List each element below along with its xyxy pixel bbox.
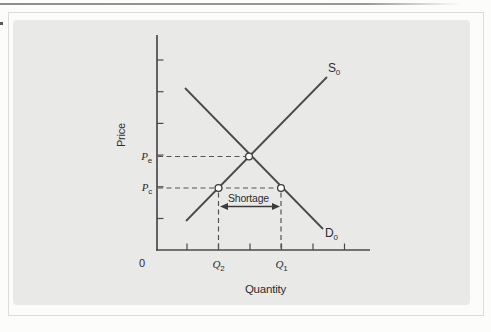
x-axis-ticks: [187, 244, 345, 251]
quantity-demanded-subscript: 1: [283, 264, 287, 273]
price-equilibrium-subscript: e: [148, 156, 152, 165]
equilibrium-point-marker: [246, 153, 253, 160]
shortage-arrowhead-left: [220, 203, 228, 210]
shortage-arrowhead-right: [272, 203, 280, 210]
supply-symbol: S: [328, 61, 336, 75]
demand-curve: [185, 88, 323, 229]
y-axis-title: Price: [116, 123, 127, 147]
price-equilibrium-label: Pe: [132, 151, 152, 165]
quantity-supplied-label: Q2: [206, 259, 231, 273]
y-axis-ticks: [157, 60, 164, 219]
demand-curve-label: D0: [325, 227, 338, 242]
demand-subscript: 0: [333, 233, 337, 242]
ceiling-supply-point-marker: [215, 185, 222, 192]
quantity-supplied-subscript: 2: [220, 264, 224, 273]
price-ceiling-subscript: c: [148, 187, 152, 196]
price-ceiling-label: Pc: [132, 182, 152, 196]
ceiling-demand-point-marker: [278, 185, 285, 192]
supply-curve-label: S0: [328, 62, 340, 77]
shortage-arrow: [220, 203, 280, 210]
quantity-demanded-label: Q1: [269, 259, 294, 273]
supply-subscript: 0: [336, 68, 340, 77]
origin-label: 0: [136, 258, 148, 269]
shortage-label: Shortage: [221, 193, 276, 204]
x-axis-title: Quantity: [225, 284, 306, 296]
